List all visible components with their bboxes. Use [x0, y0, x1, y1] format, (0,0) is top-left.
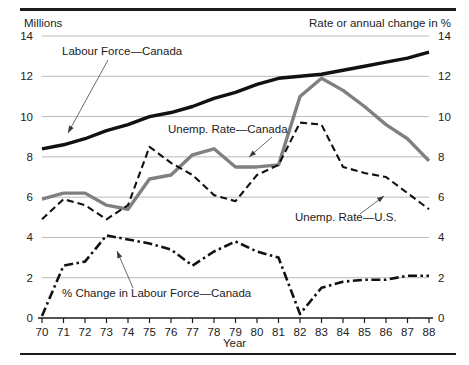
- leader-line: [68, 60, 108, 133]
- series-line: [42, 235, 429, 316]
- y-axis-left-ticks: 02468101214: [20, 30, 33, 324]
- plot-area: 02468101214 02468101214 7071727374757677…: [0, 0, 469, 365]
- x-axis: 70717273747576777879808182838485868788: [36, 318, 436, 338]
- y-tick-label-left: 14: [20, 30, 33, 42]
- y-tick-label-left: 0: [27, 312, 33, 324]
- y-tick-label-left: 8: [27, 151, 33, 163]
- series-line: [42, 78, 429, 209]
- y-tick-label-right: 6: [438, 191, 444, 203]
- y-tick-label-right: 14: [438, 30, 451, 42]
- y-tick-label-left: 10: [20, 111, 33, 123]
- y-tick-label-left: 12: [20, 70, 33, 82]
- gridlines: [42, 36, 429, 278]
- y-tick-label-left: 2: [27, 272, 33, 284]
- y-tick-label-right: 0: [438, 312, 444, 324]
- data-series: [42, 52, 429, 316]
- x-axis-label: Year: [0, 337, 469, 349]
- y-tick-label-right: 8: [438, 151, 444, 163]
- leader-arrowhead: [117, 251, 122, 258]
- y-tick-label-right: 2: [438, 272, 444, 284]
- y-tick-label-left: 4: [27, 231, 34, 243]
- y-tick-label-right: 4: [438, 231, 445, 243]
- series-line: [42, 123, 429, 220]
- y-tick-label-right: 12: [438, 70, 451, 82]
- leader-arrowhead: [68, 126, 74, 133]
- annotation-pct-change: % Change in Labour Force—Canada: [62, 287, 252, 299]
- annotation-labour-force: Labour Force—Canada: [62, 45, 183, 57]
- annotation-unemp-us: Unemp. Rate—U.S.: [295, 211, 397, 223]
- y-axis-right-ticks: 02468101214: [438, 30, 451, 324]
- annotation-unemp-canada: Unemp. Rate—Canada: [168, 123, 288, 135]
- chart-figure: Millions Rate or annual change in % 0246…: [0, 0, 469, 365]
- y-tick-label-left: 6: [27, 191, 33, 203]
- y-tick-label-right: 10: [438, 111, 451, 123]
- series-annotations: Labour Force—CanadaUnemp. Rate—CanadaUne…: [62, 45, 397, 299]
